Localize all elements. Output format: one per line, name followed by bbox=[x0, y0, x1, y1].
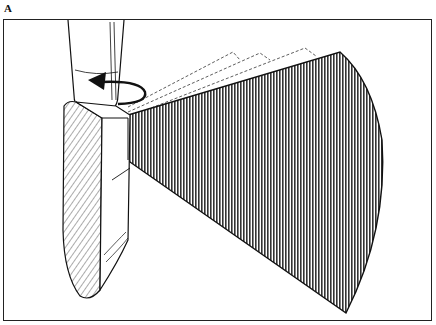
sector-beam bbox=[118, 52, 383, 313]
transducer-probe bbox=[63, 20, 130, 298]
illustration bbox=[0, 0, 436, 325]
